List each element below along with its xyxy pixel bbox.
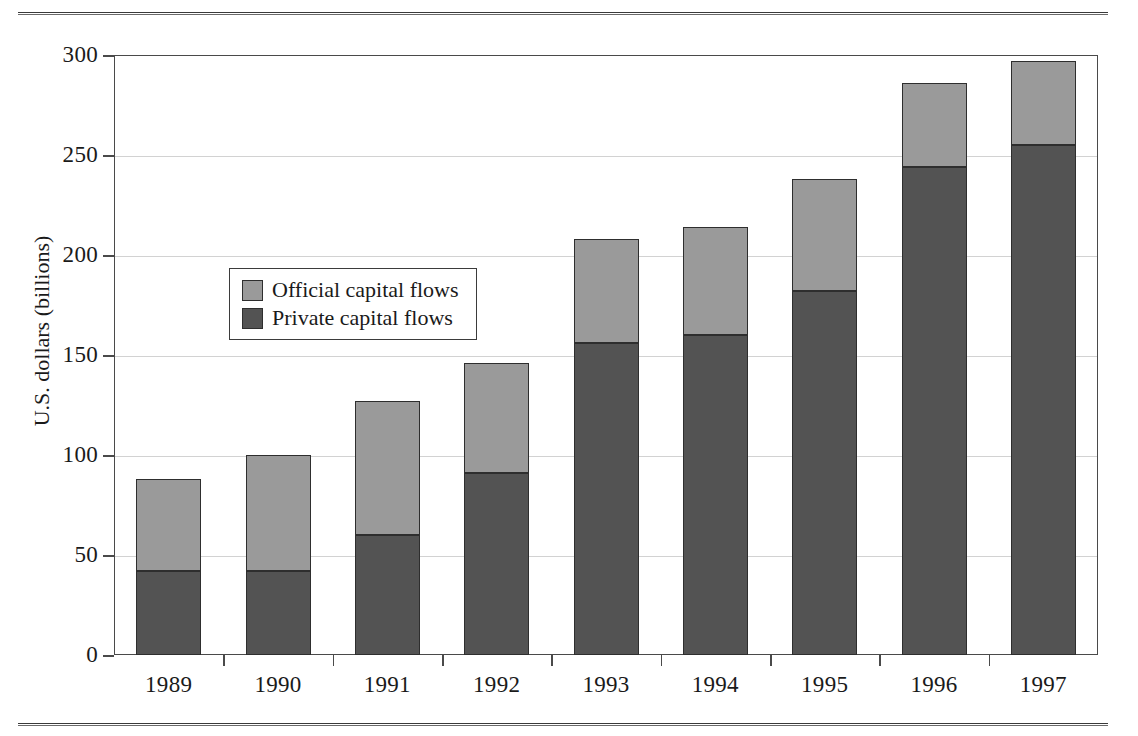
x-axis-tick-label-1996: 1996: [879, 672, 989, 698]
x-axis-tick-label-1989: 1989: [114, 672, 224, 698]
stacked-bar-chart: U.S. dollars (billions) 0501001502002503…: [0, 0, 1138, 736]
bar-segment-private[interactable]: [902, 167, 967, 655]
x-axis-tick: [223, 655, 225, 666]
x-axis-tick: [551, 655, 553, 666]
bar-segment-private[interactable]: [792, 291, 857, 655]
bar-segment-official[interactable]: [355, 401, 420, 535]
x-axis-tick: [661, 655, 663, 666]
x-axis-tick: [879, 655, 881, 666]
bar-segment-private[interactable]: [683, 335, 748, 655]
y-axis-tick: [103, 655, 114, 657]
x-axis-tick-label-1997: 1997: [988, 672, 1098, 698]
bar-segment-official[interactable]: [246, 455, 311, 571]
bar-segment-private[interactable]: [355, 535, 420, 655]
bar-segment-official[interactable]: [574, 239, 639, 343]
y-axis-tick: [103, 55, 114, 57]
bar-segment-official[interactable]: [792, 179, 857, 291]
bar-segment-official[interactable]: [902, 83, 967, 167]
bar-segment-official[interactable]: [1011, 61, 1076, 145]
legend-item-private[interactable]: Private capital flows: [242, 304, 476, 332]
bar-segment-private[interactable]: [1011, 145, 1076, 655]
x-axis-tick-label-1995: 1995: [770, 672, 880, 698]
y-axis-title: U.S. dollars (billions): [29, 171, 55, 491]
legend-swatch-official-icon: [242, 280, 263, 301]
x-axis-tick: [333, 655, 335, 666]
bar-segment-official[interactable]: [136, 479, 201, 571]
legend-swatch-private-icon: [242, 308, 263, 329]
y-axis-tick-label: 200: [63, 243, 98, 266]
y-axis-tick: [103, 455, 114, 457]
x-axis-tick: [770, 655, 772, 666]
x-axis-tick: [989, 655, 991, 666]
bar-segment-private[interactable]: [464, 473, 529, 655]
bar-segment-private[interactable]: [136, 571, 201, 655]
y-axis-tick-label: 0: [86, 643, 98, 666]
legend-label-private: Private capital flows: [272, 307, 453, 329]
chart-legend: Official capital flows Private capital f…: [229, 268, 477, 340]
bar-segment-official[interactable]: [464, 363, 529, 473]
bar-segment-private[interactable]: [574, 343, 639, 655]
y-axis-tick-label: 150: [63, 343, 98, 366]
x-axis-tick-label-1992: 1992: [442, 672, 552, 698]
y-axis-tick-label: 50: [74, 543, 98, 566]
y-axis-tick-label: 100: [63, 443, 98, 466]
y-axis-tick-label: 300: [63, 43, 98, 66]
y-axis-tick: [103, 255, 114, 257]
x-axis-tick-label-1990: 1990: [223, 672, 333, 698]
y-axis-tick: [103, 355, 114, 357]
legend-label-official: Official capital flows: [272, 279, 459, 301]
x-axis-tick-label-1994: 1994: [660, 672, 770, 698]
y-axis-tick-label: 250: [63, 143, 98, 166]
bar-segment-official[interactable]: [683, 227, 748, 335]
x-axis-tick-label-1993: 1993: [551, 672, 661, 698]
y-axis-tick: [103, 555, 114, 557]
x-axis-tick-label-1991: 1991: [332, 672, 442, 698]
x-axis-tick: [442, 655, 444, 666]
bar-series-group: [114, 55, 1098, 655]
legend-item-official[interactable]: Official capital flows: [242, 276, 476, 304]
bar-segment-private[interactable]: [246, 571, 311, 655]
y-axis-tick: [103, 155, 114, 157]
